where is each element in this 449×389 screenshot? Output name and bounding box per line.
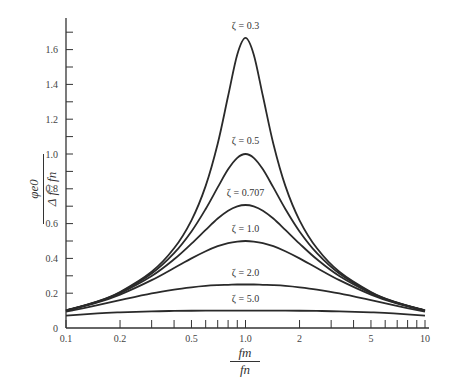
x-tick-label: 0.1 <box>60 333 73 344</box>
y-tick-label: 0.2 <box>46 288 59 299</box>
y-tick-label: 1.6 <box>46 44 59 55</box>
y-tick-label: 0.4 <box>46 253 59 264</box>
zeta-label: ζ = 0.707 <box>227 187 264 199</box>
x-tick-label: 2 <box>297 333 302 344</box>
y-label-numerator: φe0 <box>26 154 44 224</box>
y-tick-label: 1.4 <box>46 79 59 90</box>
y-axis-label: φe0 Δ f / fn <box>26 154 60 224</box>
y-tick-label: 0 <box>53 323 58 334</box>
zeta-label: ζ = 2.0 <box>232 267 259 279</box>
zeta-label: ζ = 1.0 <box>232 223 259 235</box>
zeta-label: ζ = 0.5 <box>232 135 259 147</box>
x-label-numerator: fm <box>230 345 260 362</box>
x-tick-label: 10 <box>420 333 430 344</box>
zeta-label: ζ = 5.0 <box>232 293 259 305</box>
chart-plot: 00.20.40.60.81.01.21.41.60.10.20.51.0251… <box>0 0 449 389</box>
x-tick-label: 1.0 <box>239 333 252 344</box>
x-tick-label: 0.5 <box>185 333 198 344</box>
x-tick-label: 5 <box>368 333 373 344</box>
response-curve <box>66 311 425 316</box>
x-tick-label: 0.2 <box>114 333 127 344</box>
x-label-denominator: fn <box>240 362 250 377</box>
y-label-denominator: Δ f / fn <box>44 172 59 206</box>
zeta-label: ζ = 0.3 <box>232 20 259 32</box>
x-axis-label: fm fn <box>230 345 260 378</box>
y-tick-label: 1.2 <box>46 114 59 125</box>
